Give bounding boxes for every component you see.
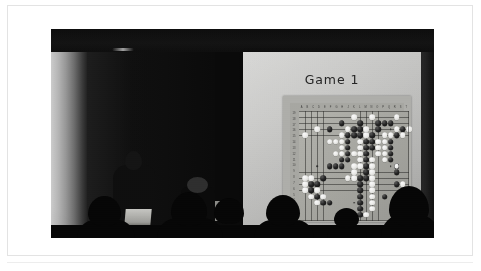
go-stone-black <box>388 145 394 151</box>
go-coord-label: 9 <box>293 169 294 174</box>
go-coord-label: R <box>392 106 397 109</box>
go-stone-white <box>339 151 345 157</box>
go-star-point <box>317 129 319 131</box>
go-coord-label: C <box>311 106 316 109</box>
go-stone-white <box>351 151 357 157</box>
page-root: Game 1 ABCDEFGHJKLMNOPQRST ABCDEFGHJKLMN… <box>0 0 481 271</box>
go-stone-black <box>339 163 345 169</box>
go-stone-white <box>339 133 345 139</box>
go-stone-black <box>339 157 345 163</box>
go-stone-white <box>339 145 345 151</box>
go-coord-label: 10 <box>293 163 296 168</box>
go-coord-label: T <box>404 106 409 109</box>
go-stone-white <box>394 114 400 120</box>
go-star-point <box>353 165 355 167</box>
audience-head-4 <box>266 195 300 226</box>
go-stone-black <box>351 127 357 133</box>
go-coord-label: P <box>381 106 386 109</box>
go-coord-label: G <box>334 106 339 109</box>
go-stone-black <box>370 139 376 145</box>
go-stone-black <box>370 133 376 139</box>
go-stone-black <box>327 163 333 169</box>
go-stone-white <box>370 163 376 169</box>
go-stone-black <box>388 151 394 157</box>
go-stone-white <box>351 163 357 169</box>
go-coord-label: E <box>322 106 327 109</box>
go-stone-white <box>315 127 321 133</box>
go-coord-label: 13 <box>293 146 296 151</box>
go-stone-black <box>357 133 363 139</box>
go-coord-label: M <box>363 106 368 109</box>
go-stone-white <box>351 114 357 120</box>
go-stone-white <box>357 139 363 145</box>
go-coord-label: S <box>398 106 403 109</box>
go-coord-label: A <box>299 106 304 109</box>
go-stone-white <box>345 127 351 133</box>
photograph: Game 1 ABCDEFGHJKLMNOPQRST ABCDEFGHJKLMN… <box>51 29 434 238</box>
ceiling-dark-band <box>51 29 434 52</box>
go-stone-black <box>394 169 400 175</box>
go-coord-label: J <box>346 106 351 109</box>
go-coord-label: 12 <box>293 152 296 157</box>
go-star-point <box>390 165 392 167</box>
go-stone-black <box>363 145 369 151</box>
go-coord-label: L <box>357 106 362 109</box>
go-stone-black <box>388 139 394 145</box>
go-stone-black <box>339 120 345 126</box>
audience-head-3 <box>214 198 244 224</box>
go-stone-black <box>345 139 351 145</box>
go-stone-black <box>351 133 357 139</box>
presenter-head-silhouette <box>125 151 142 170</box>
go-coord-label: Q <box>386 106 391 109</box>
go-stone-black <box>363 169 369 175</box>
go-coord-label: 14 <box>293 140 296 145</box>
go-stone-white <box>376 139 382 145</box>
go-coord-label: O <box>375 106 380 109</box>
ceiling-light-strip <box>112 48 134 51</box>
go-stone-black <box>357 120 363 126</box>
go-stone-white <box>351 169 357 175</box>
go-stone-white <box>370 114 376 120</box>
audience-head-6 <box>389 186 429 226</box>
go-coord-label: N <box>369 106 374 109</box>
go-stone-black <box>388 157 394 163</box>
go-board-column-labels-top: ABCDEFGHJKLMNOPQRST <box>299 104 409 110</box>
go-stone-white <box>302 133 308 139</box>
go-coord-label: K <box>351 106 356 109</box>
go-stone-white <box>400 133 406 139</box>
go-stone-white <box>406 127 412 133</box>
go-stone-white <box>382 145 388 151</box>
go-stone-white <box>363 133 369 139</box>
audience-head-1 <box>88 196 121 226</box>
go-coord-label: B <box>305 106 310 109</box>
go-stone-white <box>376 145 382 151</box>
go-stone-black <box>345 145 351 151</box>
audience-head-2 <box>171 192 207 226</box>
go-stone-white <box>394 163 400 169</box>
go-stone-black <box>388 120 394 126</box>
go-stone-black <box>333 163 339 169</box>
go-stone-white <box>357 145 363 151</box>
go-stone-white <box>333 139 339 145</box>
go-stone-white <box>382 151 388 157</box>
go-stone-white <box>370 169 376 175</box>
go-stone-white <box>333 151 339 157</box>
page-divider-line <box>7 262 473 263</box>
go-stone-black <box>345 157 351 163</box>
go-coord-label: 16 <box>293 128 296 133</box>
go-coord-label: 17 <box>293 123 296 128</box>
go-stone-white <box>394 127 400 133</box>
go-coord-label: D <box>316 106 321 109</box>
go-stone-white <box>382 133 388 139</box>
go-stone-black <box>376 120 382 126</box>
go-coord-label: F <box>328 106 333 109</box>
go-stone-black <box>357 127 363 133</box>
go-stone-black <box>370 145 376 151</box>
go-coord-label: 11 <box>293 158 296 163</box>
go-stone-white <box>339 139 345 145</box>
go-stone-black <box>363 157 369 163</box>
go-star-point <box>317 165 319 167</box>
go-stone-black <box>345 133 351 139</box>
go-stone-black <box>363 151 369 157</box>
go-star-point <box>353 129 355 131</box>
